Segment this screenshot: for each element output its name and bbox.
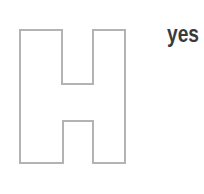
- stage: yes: [0, 0, 204, 194]
- letter-h-polygon: [20, 30, 125, 163]
- yes-label: yes: [167, 22, 199, 46]
